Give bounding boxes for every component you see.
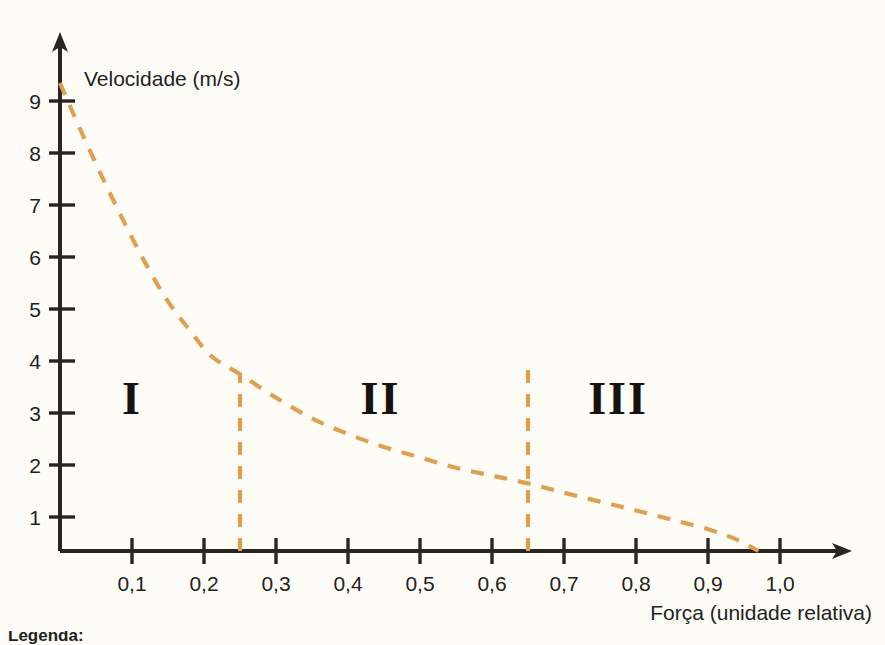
y-tick-label-9: 9: [29, 90, 41, 113]
y-tick-label-5: 5: [29, 298, 41, 321]
x-tick-label-0-1: 0,1: [117, 572, 146, 595]
y-tick-label-6: 6: [29, 246, 41, 269]
y-tick-label-8: 8: [29, 142, 41, 165]
region-label-1: I: [122, 373, 142, 424]
x-tick-label-0-6: 0,6: [477, 572, 506, 595]
velocity-force-chart: 1 2 3 4 5 6 7 8 9 Velocidade (m/s): [0, 0, 885, 645]
region-label-3: III: [588, 373, 648, 424]
y-tick-label-1: 1: [29, 506, 41, 529]
y-axis-label: Velocidade (m/s): [84, 67, 240, 90]
x-tick-label-0-4: 0,4: [333, 572, 363, 595]
x-tick-label-0-2: 0,2: [189, 572, 218, 595]
x-axis-label: Força (unidade relativa): [650, 601, 872, 624]
x-tick-label-0-9: 0,9: [693, 572, 722, 595]
x-tick-label-1-0: 1,0: [765, 572, 794, 595]
y-tick-label-7: 7: [29, 194, 41, 217]
y-tick-labels: 1 2 3 4 5 6 7 8 9: [29, 90, 41, 529]
y-tick-label-3: 3: [29, 402, 41, 425]
y-tick-label-4: 4: [29, 350, 41, 373]
x-tick-label-0-5: 0,5: [405, 572, 434, 595]
y-tick-label-2: 2: [29, 454, 41, 477]
legend-heading: Legenda:: [8, 631, 84, 645]
x-tick-label-0-8: 0,8: [621, 572, 650, 595]
x-tick-label-0-3: 0,3: [261, 572, 290, 595]
legend-heading-clip: Legenda:: [0, 631, 885, 645]
region-label-2: II: [360, 373, 400, 424]
chart-figure: 1 2 3 4 5 6 7 8 9 Velocidade (m/s): [0, 0, 885, 645]
x-tick-label-0-7: 0,7: [549, 572, 578, 595]
